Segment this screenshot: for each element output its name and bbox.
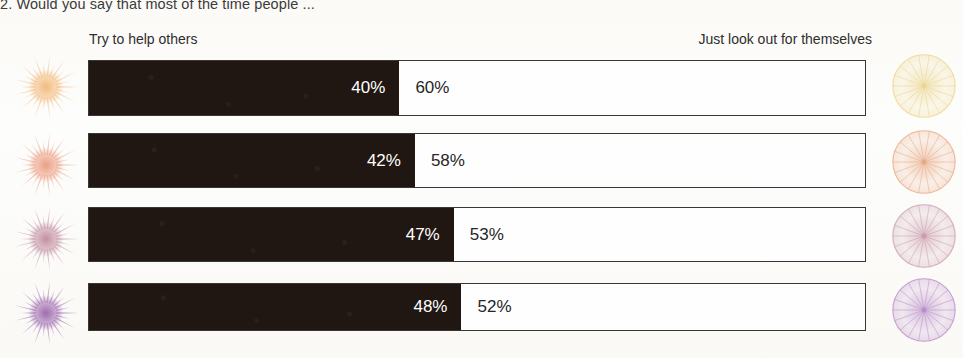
bar-segment-help-others: 40% xyxy=(89,61,399,115)
bar-segment-help-others: 42% xyxy=(89,134,415,187)
starburst-pink-icon xyxy=(9,202,83,276)
bar-segment-help-others: 47% xyxy=(89,208,454,261)
table-row: 48% 52% xyxy=(88,283,866,331)
bar-segment-help-others: 48% xyxy=(89,284,461,330)
spoked-wheel-yellow-icon xyxy=(886,48,962,124)
bar-segment-look-out-for-themselves: 60% xyxy=(399,61,865,115)
bar-segment-look-out-for-themselves: 53% xyxy=(454,208,865,261)
starburst-orange-icon xyxy=(9,50,83,124)
value-right: 60% xyxy=(415,78,449,98)
spoked-wheel-pink-icon xyxy=(886,198,962,274)
value-right: 52% xyxy=(477,297,511,317)
value-left: 40% xyxy=(351,78,385,98)
table-row: 40% 60% xyxy=(88,60,866,116)
starburst-salmon-icon xyxy=(9,128,83,202)
value-right: 53% xyxy=(470,225,504,245)
spoked-wheel-orange-icon xyxy=(886,124,962,200)
axis-label-right: Just look out for themselves xyxy=(698,31,872,47)
value-left: 47% xyxy=(406,225,440,245)
table-row: 42% 58% xyxy=(88,133,866,188)
page-title: 2. Would you say that most of the time p… xyxy=(0,0,700,12)
value-left: 48% xyxy=(413,297,447,317)
table-row: 47% 53% xyxy=(88,207,866,262)
value-right: 58% xyxy=(431,151,465,171)
value-left: 42% xyxy=(367,151,401,171)
bar-segment-look-out-for-themselves: 58% xyxy=(415,134,865,187)
spoked-wheel-purple-icon xyxy=(886,272,962,348)
bar-segment-look-out-for-themselves: 52% xyxy=(461,284,865,330)
starburst-purple-icon xyxy=(9,276,83,350)
axis-label-left: Try to help others xyxy=(89,31,197,47)
stacked-bar-chart: Try to help others Just look out for the… xyxy=(0,0,963,358)
